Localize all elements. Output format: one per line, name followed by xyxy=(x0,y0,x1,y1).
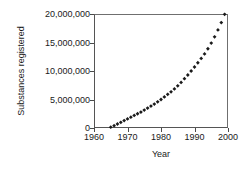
x-axis-title: Year xyxy=(94,149,228,160)
x-tick-label: 1960 xyxy=(84,133,104,142)
x-tick-label: 1990 xyxy=(184,133,204,142)
x-tick-label: 1980 xyxy=(151,133,171,142)
y-tick-label: 10,000,000 xyxy=(45,67,90,76)
x-tick-label: 2000 xyxy=(218,133,238,142)
y-tick-label: 20,000,000 xyxy=(45,10,90,19)
plot-area xyxy=(94,14,228,128)
y-axis-title: Substances registered xyxy=(14,14,28,128)
chart-figure: 0 5,000,000 10,000,000 15,000,000 20,000… xyxy=(0,0,247,171)
y-tick-label: 5,000,000 xyxy=(50,95,90,104)
x-tick-label: 1970 xyxy=(117,133,137,142)
y-tick-label: 15,000,000 xyxy=(45,38,90,47)
